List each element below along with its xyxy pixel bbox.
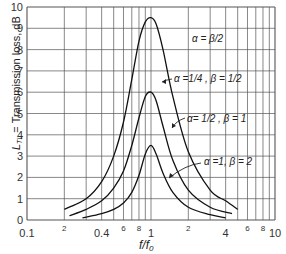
annotation-alpha-quarter: α =1/4 , β = 1/2 <box>174 73 242 84</box>
annotation-alpha-one: α =1, β = 2 <box>204 156 253 167</box>
x-tick-label: 0.1 <box>19 227 34 239</box>
x-tick-label: 8 <box>137 224 142 233</box>
x-tick-label: 6 <box>245 224 250 233</box>
x-tick-label: 4 <box>223 227 229 239</box>
chart: 012345678910 0.120.4681246810 α = β/2 α … <box>0 0 286 254</box>
x-tick-label: 2 <box>62 224 67 233</box>
y-axis-label: LTL = Transmission loss, dB <box>10 16 23 150</box>
x-tick-label: 10 <box>269 227 281 239</box>
y-tick-label: 2 <box>17 171 23 183</box>
x-tick-label: 8 <box>261 224 266 233</box>
arrow-icon <box>169 163 201 178</box>
x-tick-label: 0.4 <box>94 227 109 239</box>
annotation-alpha-beta-half: α = β/2 <box>192 33 224 44</box>
x-tick-labels: 0.120.4681246810 <box>19 224 281 239</box>
x-tick-label: 2 <box>186 224 191 233</box>
x-tick-label: 6 <box>121 224 126 233</box>
y-tick-label: 3 <box>17 150 23 162</box>
y-tick-label: 1 <box>17 193 23 205</box>
x-axis-label: f/f0 <box>139 238 154 253</box>
y-tick-label: 10 <box>11 1 23 13</box>
annotation-alpha-half: α= 1/2 , β = 1 <box>187 113 246 124</box>
y-tick-label: 0 <box>17 214 23 226</box>
